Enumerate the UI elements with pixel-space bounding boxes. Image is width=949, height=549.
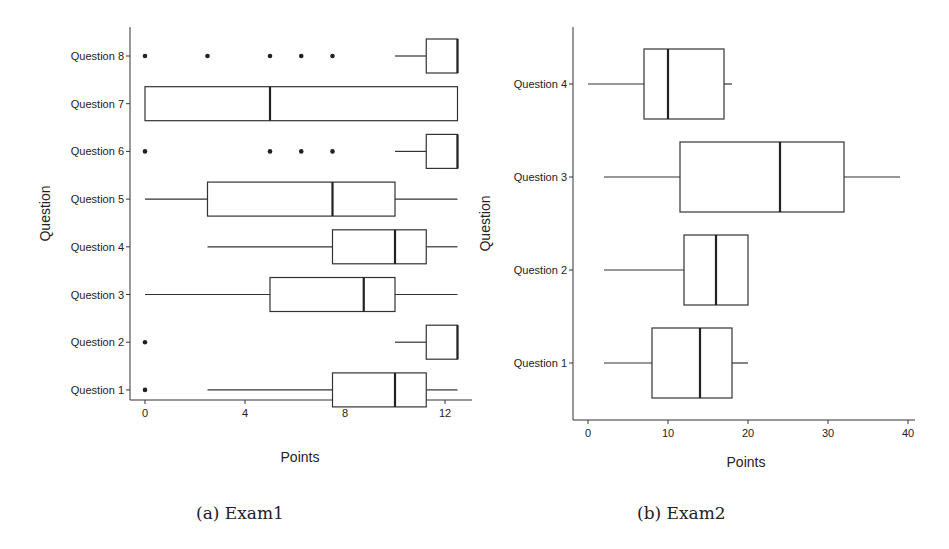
iqr-box (333, 230, 427, 264)
box-question-1 (604, 328, 748, 398)
box-question-3 (145, 278, 458, 312)
outlier-point (299, 149, 304, 154)
y-tick-label: Question 1 (71, 384, 124, 396)
exam1-boxplot: 04812Question 1Question 2Question 3Quest… (37, 27, 472, 465)
outlier-point (205, 54, 210, 59)
box-question-3 (604, 142, 900, 212)
y-tick-label: Question 7 (71, 98, 124, 110)
exam2-boxplot: 010203040Question 1Question 2Question 3Q… (477, 27, 915, 470)
y-tick-label: Question 4 (71, 241, 124, 253)
y-tick-label: Question 8 (71, 50, 124, 62)
box-question-2 (143, 325, 458, 359)
box-question-4 (208, 230, 458, 264)
x-tick-label: 20 (742, 427, 754, 439)
x-tick-label: 40 (902, 427, 914, 439)
y-tick-label: Question 3 (71, 289, 124, 301)
y-tick-label: Question 1 (514, 357, 567, 369)
box-question-4 (588, 49, 732, 119)
box-question-8 (143, 39, 458, 73)
y-tick-label: Question 3 (514, 171, 567, 183)
y-axis-title: Question (37, 185, 53, 241)
box-question-1 (143, 373, 458, 407)
box-question-5 (145, 182, 458, 216)
caption-exam1: (a) Exam1 (196, 503, 284, 523)
iqr-box (145, 87, 458, 121)
x-tick-label: 0 (142, 407, 148, 419)
outlier-point (143, 54, 148, 59)
outlier-point (143, 388, 148, 393)
outlier-point (143, 340, 148, 345)
x-tick-label: 12 (439, 407, 451, 419)
iqr-box (680, 142, 844, 212)
x-tick-label: 30 (822, 427, 834, 439)
figure-canvas: 04812Question 1Question 2Question 3Quest… (0, 0, 949, 549)
y-tick-label: Question 6 (71, 145, 124, 157)
iqr-box (208, 182, 396, 216)
outlier-point (143, 149, 148, 154)
box-question-6 (143, 134, 458, 168)
iqr-box (644, 49, 724, 119)
x-axis-title: Points (281, 449, 320, 465)
iqr-box (426, 325, 457, 359)
y-axis-title: Question (477, 195, 493, 251)
iqr-box (333, 373, 427, 407)
outlier-point (330, 54, 335, 59)
outlier-point (330, 149, 335, 154)
x-tick-label: 10 (662, 427, 674, 439)
iqr-box (426, 39, 457, 73)
box-question-2 (604, 235, 748, 305)
x-tick-label: 0 (585, 427, 591, 439)
x-tick-label: 8 (342, 407, 348, 419)
x-tick-label: 4 (242, 407, 248, 419)
iqr-box (426, 134, 457, 168)
outlier-point (268, 54, 273, 59)
box-question-7 (145, 87, 458, 121)
outlier-point (299, 54, 304, 59)
caption-exam2: (b) Exam2 (637, 503, 726, 523)
y-tick-label: Question 4 (514, 78, 567, 90)
y-tick-label: Question 2 (71, 336, 124, 348)
outlier-point (268, 149, 273, 154)
x-axis-title: Points (727, 454, 766, 470)
iqr-box (652, 328, 732, 398)
y-tick-label: Question 5 (71, 193, 124, 205)
y-tick-label: Question 2 (514, 264, 567, 276)
iqr-box (270, 278, 395, 312)
